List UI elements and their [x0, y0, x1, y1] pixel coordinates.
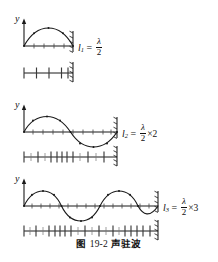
harmonic-2-panel: y: [0, 86, 218, 146]
fraction-denominator-3: 2: [181, 208, 188, 217]
caption-title: 声驻波: [111, 238, 142, 249]
figure-caption: 图19-2声驻波: [0, 238, 218, 250]
fraction-denominator-1: 2: [96, 48, 103, 57]
y-axis-label-3: y: [15, 174, 19, 184]
fraction-2: λ 2: [140, 123, 147, 143]
y-axis-label-1: y: [15, 14, 19, 24]
harmonic-2-equation: l2 = λ 2 ×2: [122, 123, 157, 143]
harmonic-3-panel: y: [0, 160, 218, 220]
caption-prefix: 图: [76, 238, 86, 249]
y-axis-1: [22, 19, 26, 47]
density-ruler-1-plot: [0, 60, 218, 86]
equals-sign-1: =: [87, 42, 93, 53]
fraction-3: λ 2: [181, 197, 188, 217]
wall-boundary-ruler-1: [70, 62, 74, 82]
harmonic-3-equation: l3 = λ 2 ×3: [163, 197, 198, 217]
y-axis-3: [22, 179, 26, 207]
fraction-1: λ 2: [96, 37, 103, 57]
harmonic-1-plot: [0, 0, 218, 60]
length-subscript-1: 1: [81, 46, 84, 53]
multiplier-2: ×2: [147, 129, 157, 139]
y-axis-2: [22, 105, 26, 133]
fraction-denominator-2: 2: [140, 134, 147, 143]
harmonic-1-equation: l1 = λ 2: [78, 37, 103, 57]
standing-sound-wave-figure: y: [0, 0, 218, 262]
lambda-numerator-3: λ: [181, 197, 188, 206]
equals-sign-2: =: [131, 128, 137, 139]
wall-boundary-1: [70, 31, 74, 53]
lambda-numerator-1: λ: [96, 37, 103, 46]
equals-sign-3: =: [172, 202, 178, 213]
multiplier-3: ×3: [188, 203, 198, 213]
caption-number: 19-2: [90, 239, 108, 249]
y-axis-label-2: y: [15, 100, 19, 110]
wave-curve-1: [24, 28, 73, 46]
density-ruler-1: [0, 60, 218, 86]
lambda-numerator-2: λ: [140, 123, 147, 132]
length-subscript-2: 2: [125, 132, 128, 139]
harmonic-2-plot: [0, 86, 218, 146]
wall-boundary-ruler-3: [155, 220, 159, 240]
length-subscript-3: 3: [166, 206, 169, 213]
harmonic-1-panel: y: [0, 0, 218, 60]
